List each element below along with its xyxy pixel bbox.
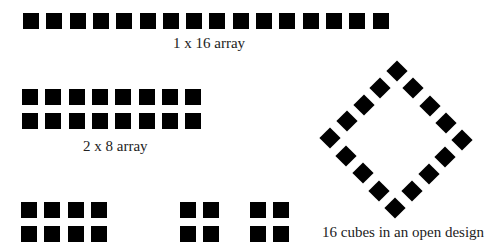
cube [336, 145, 357, 166]
cube [386, 60, 407, 81]
cube [451, 129, 472, 150]
cube-arrangements-diagram: 1 x 16 array 2 x 8 array 16 cubes in an … [0, 0, 488, 245]
cube [384, 197, 405, 218]
cube [319, 127, 340, 148]
cube [336, 111, 357, 132]
cube [418, 163, 439, 184]
cube [435, 112, 456, 133]
cube [352, 162, 373, 183]
cube [353, 94, 374, 115]
cube [401, 180, 422, 201]
cube [419, 95, 440, 116]
open-diamond-design [0, 0, 488, 245]
caption-open-design: 16 cubes in an open design [322, 225, 484, 240]
cube [435, 146, 456, 167]
cube [368, 180, 389, 201]
cube [403, 78, 424, 99]
cube [370, 77, 391, 98]
